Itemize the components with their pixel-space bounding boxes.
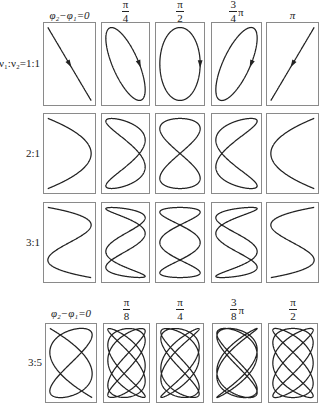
lissajous-panel (155, 202, 205, 283)
direction-arrow-icon (250, 60, 255, 68)
lissajous-curve (267, 114, 318, 193)
direction-arrow-icon (198, 60, 203, 68)
lissajous-curve (267, 203, 318, 282)
lissajous-panel (212, 323, 262, 403)
frequency-ratio-label: 3:1 (26, 236, 40, 248)
lissajous-panel (211, 113, 262, 194)
lissajous-panel (43, 202, 96, 283)
lissajous-panel (101, 113, 150, 194)
lissajous-panel (43, 113, 96, 194)
frequency-ratio-label: 2:1 (26, 147, 40, 159)
frequency-ratio-label: ν₁:ν₂=1:1 (0, 57, 40, 69)
phase-fraction: π4 (176, 297, 184, 322)
phase-label: φ₂−φ₁=0 (49, 9, 89, 21)
lissajous-curve (102, 203, 149, 282)
lissajous-curve (267, 23, 318, 105)
lissajous-curve (157, 324, 203, 402)
lissajous-curve (212, 114, 261, 193)
phase-label: φ₂−φ₁=0 (51, 307, 91, 319)
lissajous-panel (266, 202, 319, 283)
phase-fraction: 38 (230, 297, 238, 322)
lissajous-panel (101, 202, 150, 283)
bottom-header-4: π2 (258, 297, 326, 322)
lissajous-panel (103, 323, 150, 403)
frequency-ratio-label: 3:5 (28, 356, 42, 368)
lissajous-panel (155, 113, 205, 194)
lissajous-panel (268, 323, 318, 403)
lissajous-curve (212, 203, 261, 282)
lissajous-panel (155, 22, 205, 106)
lissajous-curve (44, 23, 95, 105)
direction-arrow-icon (291, 59, 297, 67)
lissajous-curve (46, 324, 96, 402)
direction-arrow-icon (136, 60, 141, 68)
lissajous-curve (44, 114, 95, 193)
lissajous-panel (45, 323, 97, 403)
lissajous-curve (212, 23, 261, 105)
lissajous-panel (266, 113, 319, 194)
lissajous-curve (156, 203, 204, 282)
phase-fraction: π4 (122, 0, 130, 24)
phase-label: π (290, 9, 296, 21)
phase-fraction: π8 (123, 297, 131, 322)
lissajous-curve (156, 23, 204, 105)
lissajous-panel (101, 22, 150, 106)
lissajous-curve (213, 324, 261, 402)
direction-arrow-icon (65, 59, 71, 67)
lissajous-panel (43, 22, 96, 106)
lissajous-curve (104, 324, 149, 402)
lissajous-panel (156, 323, 204, 403)
lissajous-curve (102, 23, 149, 105)
phase-fraction: 34 (229, 0, 237, 24)
lissajous-curve (102, 114, 149, 193)
lissajous-curve (269, 324, 317, 402)
lissajous-panel (266, 22, 319, 106)
lissajous-curve (156, 114, 204, 193)
top-header-4: π (256, 9, 326, 21)
lissajous-panel (211, 22, 262, 106)
phase-fraction: π2 (289, 297, 297, 322)
lissajous-curve (44, 203, 95, 282)
phase-fraction: π2 (176, 0, 184, 24)
lissajous-panel (211, 202, 262, 283)
